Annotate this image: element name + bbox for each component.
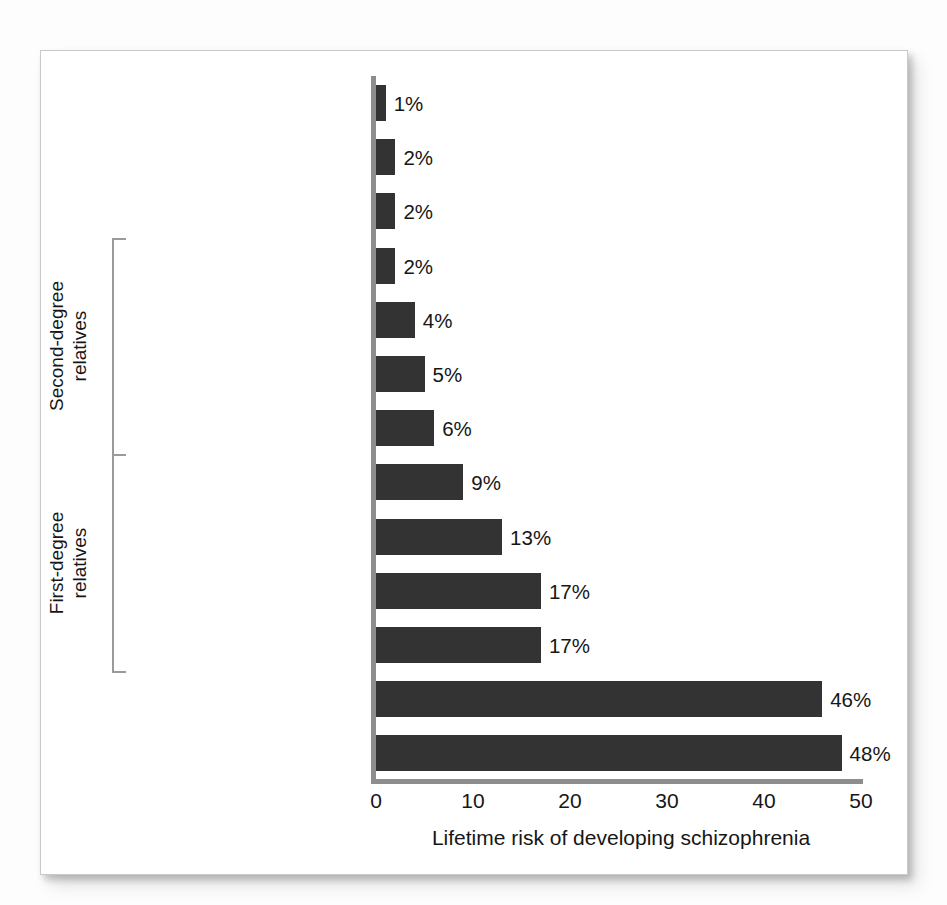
bar	[376, 573, 541, 609]
bar	[376, 519, 502, 555]
bar-value-label: 1%	[394, 94, 424, 115]
bar	[376, 464, 463, 500]
bar	[376, 193, 395, 229]
bar	[376, 681, 822, 717]
bar-value-label: 17%	[549, 582, 590, 603]
bar-value-label: 46%	[830, 690, 871, 711]
bar-value-label: 48%	[850, 744, 891, 765]
x-axis-title: Lifetime risk of developing schizophreni…	[371, 826, 871, 850]
bar	[376, 410, 434, 446]
bar	[376, 139, 395, 175]
group-bracket-label: First-degree relatives	[45, 448, 91, 678]
bar	[376, 302, 415, 338]
group-bracket	[112, 454, 126, 673]
x-tick-label: 0	[346, 789, 406, 813]
bar-value-label: 13%	[510, 528, 551, 549]
x-tick-label: 50	[831, 789, 891, 813]
bar	[376, 735, 842, 771]
x-tick-label: 30	[637, 789, 697, 813]
group-bracket	[112, 238, 126, 457]
x-tick-label: 40	[734, 789, 794, 813]
bar	[376, 627, 541, 663]
bar-value-label: 9%	[471, 473, 501, 494]
bar-chart: General population1%Spouses of patients2…	[0, 0, 947, 905]
figure-page: General population1%Spouses of patients2…	[0, 0, 947, 905]
x-axis-line	[371, 779, 863, 784]
bar-value-label: 5%	[433, 365, 463, 386]
bar-value-label: 6%	[442, 419, 472, 440]
bar	[376, 248, 395, 284]
bar-value-label: 17%	[549, 636, 590, 657]
x-tick-label: 20	[540, 789, 600, 813]
x-tick-label: 10	[443, 789, 503, 813]
bar	[376, 85, 386, 121]
bar-value-label: 2%	[403, 202, 433, 223]
bar-value-label: 2%	[403, 257, 433, 278]
bar	[376, 356, 425, 392]
bar-value-label: 4%	[423, 311, 453, 332]
bar-value-label: 2%	[403, 148, 433, 169]
group-bracket-label: Second-degree relatives	[45, 231, 91, 461]
